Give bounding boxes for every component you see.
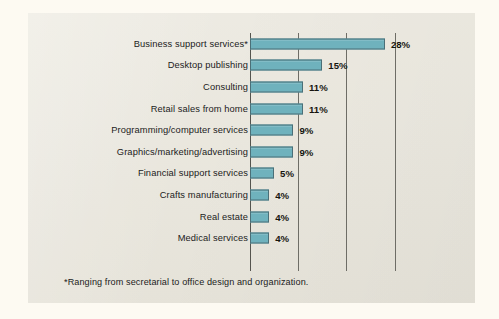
category-label: Graphics/marketing/advertising	[117, 147, 248, 157]
bar-value-label: 9%	[299, 125, 313, 136]
bar-value-label: 5%	[280, 168, 294, 179]
chart-footnote: *Ranging from secretarial to office desi…	[64, 277, 308, 287]
bar-row: Real estate4%	[28, 206, 475, 228]
category-label: Retail sales from home	[151, 104, 248, 114]
chart-panel: Business support services*28%Desktop pub…	[28, 13, 475, 303]
bar-value-label: 11%	[309, 81, 328, 92]
page-root: Business support services*28%Desktop pub…	[0, 0, 499, 319]
bar	[250, 81, 303, 92]
category-label: Crafts manufacturing	[160, 190, 248, 200]
bar-value-label: 4%	[275, 233, 289, 244]
bar-value-label: 15%	[328, 60, 347, 71]
bar	[250, 233, 269, 244]
category-label: Consulting	[203, 82, 248, 92]
bar-row: Programming/computer services9%	[28, 119, 475, 141]
bar	[250, 38, 385, 49]
bar-row: Consulting11%	[28, 76, 475, 98]
bar-value-label: 9%	[299, 146, 313, 157]
bar-row: Retail sales from home11%	[28, 98, 475, 120]
bar-row: Graphics/marketing/advertising9%	[28, 141, 475, 163]
category-label: Desktop publishing	[168, 60, 248, 70]
bar	[250, 60, 322, 71]
category-label: Financial support services	[138, 168, 248, 178]
bar	[250, 125, 293, 136]
bar-value-label: 4%	[275, 189, 289, 200]
bar-row: Financial support services5%	[28, 163, 475, 185]
bar-row: Medical services4%	[28, 227, 475, 249]
bar	[250, 168, 274, 179]
category-label: Real estate	[200, 212, 248, 222]
bar-value-label: 28%	[391, 38, 410, 49]
bar-chart-plot: Business support services*28%Desktop pub…	[28, 13, 475, 303]
bar-value-label: 11%	[309, 103, 328, 114]
bar	[250, 189, 269, 200]
category-label: Programming/computer services	[111, 125, 248, 135]
bar-row: Desktop publishing15%	[28, 55, 475, 77]
bar-value-label: 4%	[275, 211, 289, 222]
bar-row: Crafts manufacturing4%	[28, 184, 475, 206]
bar-row: Business support services*28%	[28, 33, 475, 55]
bar	[250, 146, 293, 157]
bar	[250, 103, 303, 114]
bar	[250, 211, 269, 222]
category-label: Medical services	[178, 233, 248, 243]
category-label: Business support services*	[134, 39, 248, 49]
